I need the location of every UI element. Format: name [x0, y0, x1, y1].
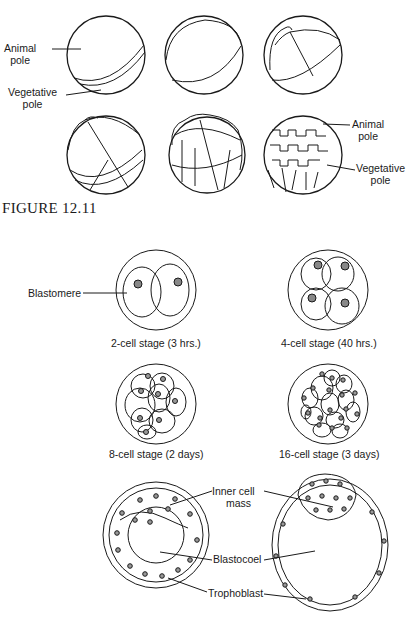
label-blastocoel: Blastocoel	[213, 553, 261, 565]
embryo-diagram	[0, 0, 413, 620]
label-vegetative-pole-left: Vegetativepole	[8, 86, 57, 110]
cleavage-4cell	[264, 16, 342, 94]
embryo-2cell	[83, 250, 196, 330]
label-line: mass	[212, 497, 251, 509]
cleavage-2cell	[165, 16, 243, 94]
label-line: Animal	[4, 42, 36, 54]
label-trophoblast: Trophoblast	[208, 587, 263, 599]
caption-16cell: 16-cell stage (3 days)	[279, 448, 379, 460]
caption-8cell: 8-cell stage (2 days)	[109, 448, 204, 460]
label-line: pole	[23, 98, 43, 110]
cleavage-8cell	[67, 116, 145, 194]
label-blastomere: Blastomere	[28, 287, 81, 299]
label-line: pole	[10, 54, 30, 66]
cleavage-16cell	[169, 114, 245, 193]
label-line: Inner cell	[212, 485, 255, 497]
label-vegetative-pole-right: Vegetativepole	[356, 162, 405, 186]
cleavage-1cell	[52, 16, 145, 95]
embryo-4cell	[288, 250, 368, 330]
label-line: Vegetative	[8, 86, 57, 98]
blastocyst-early	[103, 482, 212, 592]
label-line: Vegetative	[356, 162, 405, 174]
embryo-16cell	[288, 364, 368, 444]
label-animal-pole-right: Animalpole	[352, 118, 384, 142]
label-line: pole	[358, 130, 378, 142]
label-line: pole	[371, 174, 391, 186]
figure-title: FIGURE 12.11	[2, 200, 97, 217]
cleavage-blastula	[264, 116, 355, 194]
caption-4cell: 4-cell stage (40 hrs.)	[281, 337, 377, 349]
embryo-8cell	[116, 364, 196, 444]
label-inner-cell-mass: Inner cellmass	[212, 485, 255, 509]
label-animal-pole-left: Animalpole	[4, 42, 36, 66]
caption-2cell: 2-cell stage (3 hrs.)	[111, 337, 201, 349]
blastocyst-late	[264, 474, 388, 611]
label-line: Animal	[352, 118, 384, 130]
